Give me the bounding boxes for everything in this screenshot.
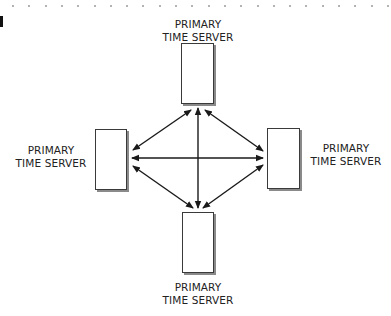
arrow-top-right <box>205 110 263 151</box>
arrow-bottom-left <box>133 166 193 208</box>
arrow-top-left <box>133 110 191 150</box>
arrow-bottom-right <box>203 165 263 208</box>
connection-arrows <box>0 0 391 316</box>
